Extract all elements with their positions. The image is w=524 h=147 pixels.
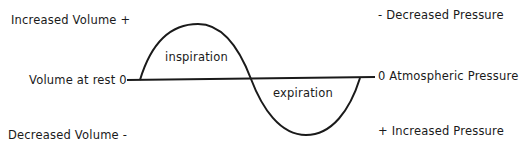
label-expiration: expiration — [273, 86, 333, 100]
label-atmospheric-pressure: 0 Atmospheric Pressure — [378, 69, 518, 83]
label-volume-at-rest: Volume at rest 0 — [29, 73, 127, 87]
label-increased-pressure: + Increased Pressure — [378, 124, 504, 138]
label-increased-volume: Increased Volume + — [11, 13, 130, 27]
label-decreased-pressure: - Decreased Pressure — [378, 8, 504, 22]
label-decreased-volume: Decreased Volume - — [8, 128, 127, 142]
label-inspiration: inspiration — [165, 50, 228, 64]
